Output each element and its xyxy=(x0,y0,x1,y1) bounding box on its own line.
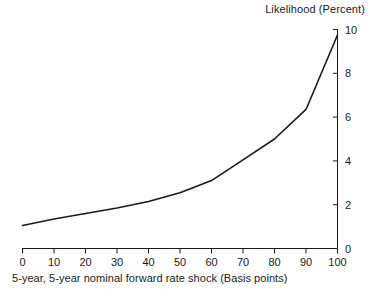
x-axis-label: 5-year, 5-year nominal forward rate shoc… xyxy=(12,272,287,284)
y-axis-ticks xyxy=(333,30,338,249)
y-tick-label-2: 2 xyxy=(345,199,351,211)
x-tick-label-50: 50 xyxy=(174,256,186,268)
y-tick-label-0: 0 xyxy=(345,243,351,255)
x-tick-label-20: 20 xyxy=(79,256,91,268)
x-axis-ticks xyxy=(23,249,338,254)
likelihood-data-line xyxy=(23,35,338,226)
x-tick-label-0: 0 xyxy=(19,256,25,268)
x-tick-label-80: 80 xyxy=(268,256,280,268)
chart-figure: Likelihood (Percent) xyxy=(0,0,370,296)
x-tick-label-100: 100 xyxy=(328,256,346,268)
x-tick-label-40: 40 xyxy=(142,256,154,268)
x-tick-label-10: 10 xyxy=(48,256,60,268)
x-tick-label-60: 60 xyxy=(205,256,217,268)
y-tick-label-10: 10 xyxy=(345,24,357,36)
y-tick-label-8: 8 xyxy=(345,67,351,79)
x-tick-label-90: 90 xyxy=(300,256,312,268)
likelihood-line-chart: 0 10 20 30 40 50 60 70 80 90 100 0 2 4 6… xyxy=(0,0,370,296)
y-tick-label-4: 4 xyxy=(345,155,351,167)
x-tick-label-70: 70 xyxy=(237,256,249,268)
y-tick-label-6: 6 xyxy=(345,111,351,123)
x-tick-label-30: 30 xyxy=(111,256,123,268)
